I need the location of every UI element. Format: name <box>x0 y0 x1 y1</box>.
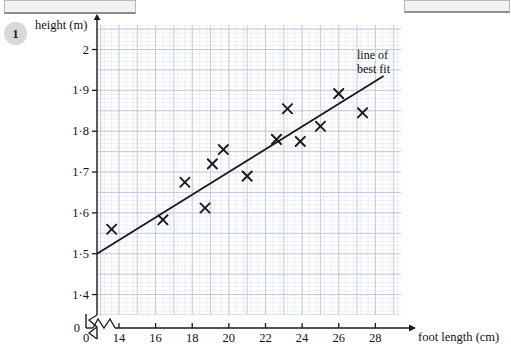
x-tick-label: 28 <box>369 331 382 346</box>
y-tick-label: 1·6 <box>72 205 89 220</box>
x-tick-label: 26 <box>332 331 345 346</box>
y-tick-label: 2 <box>83 42 89 57</box>
y-tick-label: 1·8 <box>72 124 89 139</box>
y-axis-arrow-icon <box>94 14 101 20</box>
x-tick-label: 20 <box>223 331 236 346</box>
y-tick-label: 1·7 <box>72 165 89 180</box>
x-tick-label: 24 <box>296 331 309 346</box>
bestfit-label-line2: best fit <box>357 62 390 76</box>
screenshot-stage: 1 height (m) foot length (cm) 1·41·51·61… <box>0 0 511 349</box>
x-origin-label: 0 <box>83 331 89 346</box>
x-tick-label: 16 <box>149 331 162 346</box>
y-tick-label: 1·5 <box>72 246 89 261</box>
y-tick-label: 1·9 <box>72 83 89 98</box>
x-tick-label: 18 <box>186 331 199 346</box>
line-of-best-fit-label: line of best fit <box>357 48 390 76</box>
x-axis-arrow-icon <box>409 325 416 332</box>
y-tick-label: 1·4 <box>72 287 89 302</box>
bestfit-label-line1: line of <box>357 48 390 62</box>
x-tick-label: 14 <box>113 331 126 346</box>
y-origin-label: 0 <box>74 321 80 336</box>
x-tick-label: 22 <box>259 331 272 346</box>
